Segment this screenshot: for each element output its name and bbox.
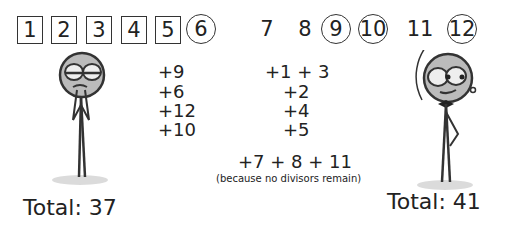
right-move: +4 <box>283 101 310 120</box>
number-box-5: 5 <box>155 16 181 44</box>
number-circle-12: 12 <box>447 14 477 44</box>
number-box-3: 3 <box>86 16 112 44</box>
number-7: 7 <box>255 16 279 42</box>
left-move: +9 <box>158 62 185 81</box>
right-note: (because no divisors remain) <box>216 173 361 184</box>
smug-stick-figure <box>400 50 500 200</box>
number-box-4: 4 <box>121 16 147 44</box>
number-circle-9: 9 <box>321 14 351 44</box>
right-move: +1 + 3 <box>265 62 330 81</box>
right-move: +5 <box>283 120 310 139</box>
number-circle-6: 6 <box>186 14 216 44</box>
number-box-1: 1 <box>17 16 43 44</box>
number-8: 8 <box>293 16 317 42</box>
sad-stick-figure <box>40 50 120 200</box>
right-move: +7 + 8 + 11 <box>238 152 352 171</box>
number-circle-10: 10 <box>358 14 388 44</box>
left-total: Total: 37 <box>23 195 117 220</box>
left-move: +6 <box>158 82 185 101</box>
number-11: 11 <box>406 16 434 42</box>
number-box-2: 2 <box>51 16 77 44</box>
eye <box>428 68 448 86</box>
right-move: +2 <box>283 82 310 101</box>
left-move: +10 <box>158 120 196 139</box>
left-move: +12 <box>158 101 196 120</box>
right-total: Total: 41 <box>387 189 481 214</box>
